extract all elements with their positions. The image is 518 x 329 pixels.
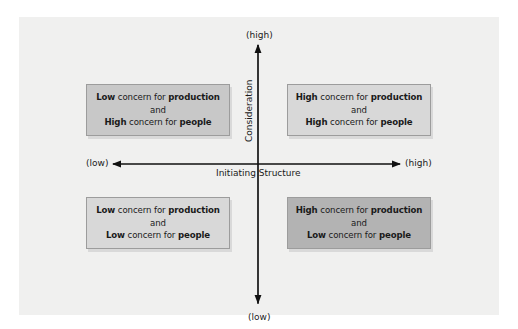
quadrant-top-right: High concern for production and High con… [287,84,431,136]
quadrant-line-1: Low concern for production [96,91,220,104]
axes [0,0,518,329]
vertical-high-label: (high) [246,30,273,40]
vertical-low-label: (low) [248,312,270,322]
horizontal-high-label: (high) [405,158,432,168]
horizontal-low-label: (low) [86,158,108,168]
quadrant-line-1: Low concern for production [96,204,220,217]
quadrant-bottom-right: High concern for production and Low conc… [287,197,431,249]
quadrant-connector: and [351,104,367,117]
quadrant-connector: and [351,217,367,230]
vertical-axis-title: Consideration [244,80,254,142]
quadrant-line-2: High concern for people [104,116,211,129]
horizontal-axis-title: Initiating Structure [216,168,301,178]
quadrant-line-1: High concern for production [296,91,423,104]
quadrant-bottom-left: Low concern for production and Low conce… [86,197,230,249]
quadrant-top-left: Low concern for production and High conc… [86,84,230,136]
quadrant-line-2: High concern for people [305,116,412,129]
quadrant-line-1: High concern for production [296,204,423,217]
quadrant-connector: and [150,217,166,230]
quadrant-line-2: Low concern for people [106,229,210,242]
quadrant-connector: and [150,104,166,117]
quadrant-line-2: Low concern for people [307,229,411,242]
